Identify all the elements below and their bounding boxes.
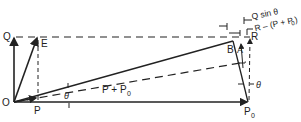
label-E: E — [41, 38, 48, 49]
label-theta-2: θ — [256, 80, 261, 90]
vector-OE — [14, 38, 37, 102]
label-r-minus-close: ) — [294, 14, 299, 24]
label-P0-sub: 0 — [251, 112, 255, 119]
label-Q: Q — [3, 31, 11, 42]
label-P: P — [34, 105, 41, 116]
label-theta-1: θ — [64, 91, 69, 101]
label-O: O — [2, 97, 10, 108]
label-A: A — [237, 45, 243, 55]
label-sum-line: P + P — [102, 84, 127, 95]
label-B: B — [227, 44, 234, 55]
label-sum-line-sub: 0 — [127, 90, 131, 97]
label-P0: P — [244, 106, 251, 117]
vector-diagram: O Q E P θ P + P 0 B A R θ P 0 Q sin θ R … — [0, 0, 301, 122]
dashed-line-RP0 — [249, 39, 250, 100]
